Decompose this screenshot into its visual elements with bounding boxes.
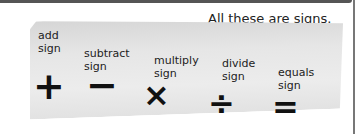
multiply-icon: × — [143, 76, 170, 114]
frame-top-border — [0, 0, 352, 3]
frame-right-border — [353, 0, 355, 134]
label-line: divide — [222, 57, 255, 70]
minus-icon: − — [86, 63, 118, 107]
label-line: subtract — [84, 47, 130, 60]
label-line: equals — [278, 66, 314, 79]
divide-icon: ÷ — [208, 84, 235, 122]
label-line: add — [38, 29, 61, 42]
label-line: sign — [222, 70, 255, 83]
plus-icon: + — [33, 64, 65, 108]
label-line: multiply — [154, 54, 199, 67]
add-sign-label: add sign — [38, 29, 61, 55]
label-line: sign — [38, 42, 61, 55]
divide-sign-label: divide sign — [222, 57, 255, 83]
equals-icon: = — [272, 88, 299, 126]
